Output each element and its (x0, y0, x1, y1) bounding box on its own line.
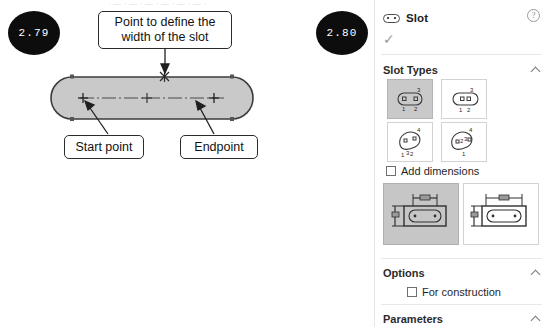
slot-type-3-point-arc[interactable]: 1 2 3 4 (387, 122, 433, 162)
panel-header: Slot (383, 10, 540, 26)
svg-text:2: 2 (467, 107, 471, 113)
add-dimensions-checkbox[interactable]: Add dimensions (386, 164, 479, 178)
for-construction-label: For construction (422, 286, 501, 298)
chevron-up-icon (531, 268, 540, 277)
svg-text:2: 2 (410, 151, 414, 157)
divider-parameters (381, 304, 542, 305)
callout-endpoint: Endpoint (180, 135, 258, 159)
slot-illustration: 2.79 (0, 0, 300, 327)
callout-endpoint-text: Endpoint (194, 140, 243, 155)
section-parameters-header[interactable]: Parameters (383, 311, 540, 326)
section-slot-types-label: Slot Types (383, 64, 438, 76)
dimension-style-overall[interactable] (463, 183, 539, 245)
callout-start-point-text: Start point (76, 140, 133, 155)
step-badge-280: 2.80 (316, 11, 368, 55)
slot-type-overall-icon: 1 2 3 (442, 80, 486, 118)
chevron-up-icon (531, 65, 540, 74)
svg-text:2: 2 (414, 106, 418, 112)
slot-figure-drawing (0, 0, 300, 327)
slot-icon (383, 14, 400, 23)
help-icon[interactable]: ? (527, 9, 540, 22)
dimension-style-center-to-center[interactable] (383, 183, 459, 245)
section-parameters-label: Parameters (383, 313, 443, 325)
add-dimensions-label: Add dimensions (401, 165, 479, 177)
screenshot-root: · — · — · — · — · — · — · 2.79 (0, 0, 548, 327)
slot-type-overall[interactable]: 1 2 3 (441, 79, 487, 119)
slot-properties-panel: Slot ? ✓ Slot Types 1 2 3 (374, 0, 548, 327)
slot-type-centerpoint-arc[interactable]: 2 3 4 1 (441, 122, 487, 162)
svg-text:1: 1 (401, 152, 405, 158)
checkbox-icon (407, 287, 417, 297)
panel-title: Slot (406, 12, 428, 24)
callout-start-point: Start point (64, 135, 144, 159)
confirm-button[interactable]: ✓ (383, 30, 403, 46)
slot-type-centerpoint-arc-icon: 2 3 4 1 (442, 123, 486, 161)
callout-width-point: Point to define the width of the slot (98, 11, 232, 49)
svg-text:3: 3 (417, 87, 421, 93)
leader-width-point (161, 49, 169, 73)
divider-options (381, 258, 542, 259)
checkbox-icon (386, 166, 396, 176)
chevron-up-icon (531, 314, 540, 323)
svg-text:1: 1 (459, 107, 463, 113)
section-options-label: Options (383, 267, 425, 279)
divider-header (381, 54, 542, 55)
slot-type-center-to-center-icon: 1 2 3 (388, 80, 432, 118)
section-options-header[interactable]: Options (383, 265, 540, 280)
svg-text:1: 1 (462, 151, 466, 157)
svg-text:4: 4 (469, 127, 473, 133)
dimension-style-overall-icon (464, 184, 538, 244)
dimension-style-center-to-center-icon (384, 184, 458, 244)
section-slot-types-header[interactable]: Slot Types (383, 62, 540, 77)
svg-text:3: 3 (464, 136, 468, 142)
slot-type-3-point-arc-icon: 1 2 3 4 (388, 123, 432, 161)
svg-text:4: 4 (417, 127, 421, 133)
checkmark-icon: ✓ (383, 31, 395, 47)
for-construction-checkbox[interactable]: For construction (407, 285, 501, 299)
svg-text:3: 3 (470, 87, 474, 93)
svg-text:1: 1 (402, 106, 406, 112)
slot-type-center-to-center[interactable]: 1 2 3 (387, 79, 433, 119)
callout-width-point-text: Point to define the width of the slot (115, 15, 216, 45)
